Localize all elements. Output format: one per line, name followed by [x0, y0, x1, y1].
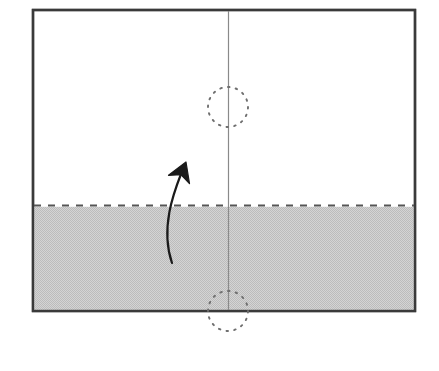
fold-diagram-container	[0, 0, 439, 371]
shaded-flap	[34, 207, 414, 310]
fold-diagram-canvas	[0, 0, 439, 371]
